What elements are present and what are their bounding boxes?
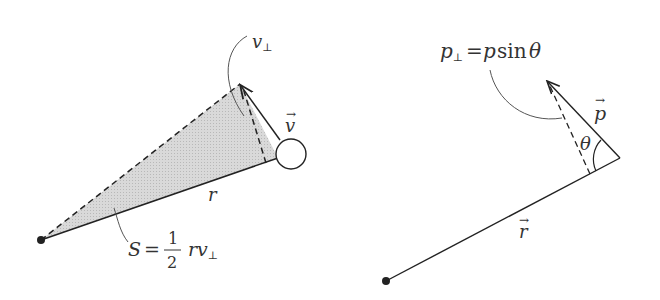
- swept-area: [41, 84, 278, 240]
- particle-circle: [276, 139, 306, 169]
- left-panel: v⊥ v → r S = 1 2 rv⊥: [37, 31, 306, 272]
- label-theta: θ: [580, 133, 591, 154]
- diagram: v⊥ v → r S = 1 2 rv⊥ p⊥ = p sin θ p → θ …: [0, 0, 660, 300]
- svg-text:S: S: [128, 238, 141, 260]
- label-v-perp: v⊥: [252, 31, 273, 54]
- p-perp-dashed: [549, 84, 590, 174]
- v-vector-arrow-icon: →: [286, 107, 296, 121]
- theta-arc: [593, 140, 601, 171]
- area-formula: S = 1 2 rv⊥: [128, 229, 218, 272]
- angular-momentum-diagram: v⊥ v → r S = 1 2 rv⊥ p⊥ = p sin θ p → θ …: [0, 0, 660, 300]
- r-vector-arrow-icon: →: [519, 213, 529, 227]
- label-r: r: [208, 184, 218, 205]
- svg-text:sin: sin: [497, 39, 527, 63]
- p-perp-pointer: [490, 70, 562, 119]
- svg-text:=: =: [466, 39, 483, 63]
- svg-text:1: 1: [168, 229, 178, 248]
- svg-text:2: 2: [167, 253, 177, 272]
- origin-dot: [37, 236, 45, 244]
- svg-text:p: p: [483, 39, 496, 63]
- svg-text:p⊥: p⊥: [440, 39, 463, 64]
- svg-text:=: =: [144, 238, 160, 260]
- svg-text:θ: θ: [529, 39, 541, 63]
- origin-dot-right: [382, 277, 390, 285]
- svg-text:rv⊥: rv⊥: [188, 238, 218, 262]
- p-perp-formula: p⊥ = p sin θ: [440, 39, 541, 64]
- r-vector-line: [386, 158, 620, 281]
- p-vector-arrow-icon: →: [595, 93, 605, 107]
- right-panel: p⊥ = p sin θ p → θ r →: [382, 39, 620, 285]
